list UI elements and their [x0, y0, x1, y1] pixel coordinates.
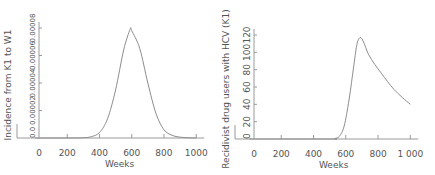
chart-canvas: 02004006008001000Weeks0.00.000020.000040…: [0, 0, 435, 175]
y-tick-label: 0.00002: [29, 96, 37, 125]
x-tick-label: 600: [337, 149, 354, 159]
x-tick-label: 200: [59, 148, 76, 158]
y-axis-title: Incidence from K1 to W1: [3, 30, 13, 141]
y-tick-label: 120: [242, 26, 252, 43]
x-axis-line: [17, 124, 204, 138]
x-tick-label: 600: [123, 148, 140, 158]
x-tick-label: 0: [36, 148, 42, 158]
incidence-chart: 02004006008001000Weeks0.00.000020.000040…: [3, 14, 208, 169]
x-tick-label: 800: [155, 148, 172, 158]
x-tick-label: 200: [273, 149, 290, 159]
y-tick-label: 0: [242, 133, 252, 139]
y-tick-label: 60: [242, 81, 252, 93]
x-tick-label: 0: [251, 149, 257, 159]
x-axis-title: Weeks: [105, 159, 135, 169]
y-tick-label: 0.00004: [29, 68, 37, 97]
data-series-line: [35, 28, 196, 138]
recidivist-hcv-chart: 02004006008001 000Weeks020406080100120Re…: [221, 9, 423, 170]
y-tick-label: 0.00006: [29, 40, 37, 69]
y-tick-label: 80: [242, 64, 252, 76]
y-tick-label: 0.0: [29, 127, 37, 138]
x-tick-label: 800: [369, 149, 386, 159]
x-axis-line: [235, 125, 418, 139]
x-tick-label: 400: [91, 148, 108, 158]
y-tick-label: 0.00008: [29, 14, 37, 43]
y-axis-title: Recidivist drug users with HCV (K1): [221, 9, 231, 169]
x-tick-label: 1000: [185, 148, 208, 158]
x-tick-label: 1 000: [397, 149, 423, 159]
x-tick-label: 400: [305, 149, 322, 159]
data-series-line: [249, 38, 410, 139]
y-tick-label: 20: [242, 116, 252, 128]
x-axis-title: Weeks: [319, 160, 349, 170]
y-tick-label: 100: [242, 43, 252, 60]
y-tick-label: 40: [242, 98, 252, 110]
